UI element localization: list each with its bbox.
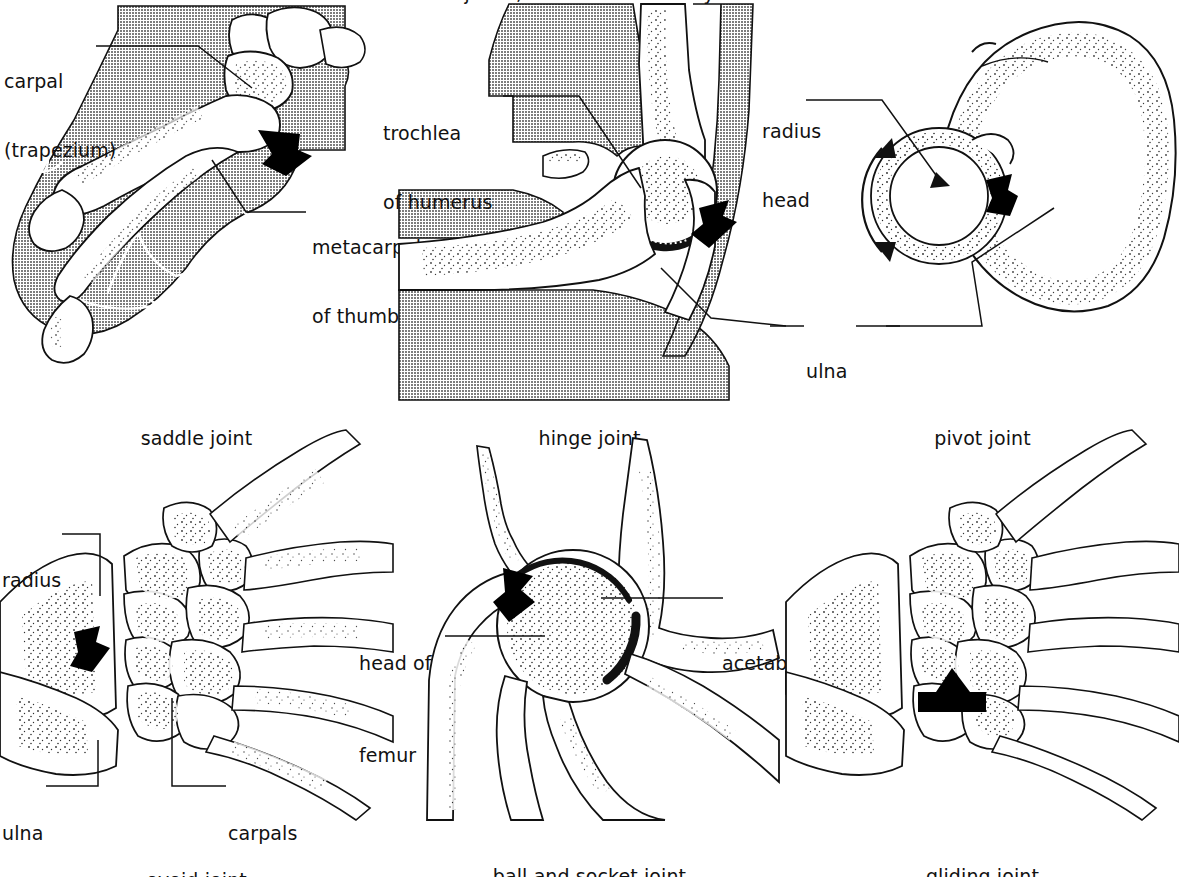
label-carpal-trapezium: carpal (trapezium) [4, 24, 116, 208]
gliding-joint-illustration [786, 430, 1179, 877]
ilium-edge [477, 446, 529, 580]
caption-ovoid-joint: ovoid joint [0, 820, 393, 877]
caption-ball-and-socket-joint: ball and socket joint (hip) [393, 816, 786, 877]
caption-gliding-joint: gliding joint (between carpals) [786, 816, 1179, 877]
joint-types-figure: joints, as seen in the body [0, 0, 1179, 877]
label-head-of-femur: head of femur [359, 606, 432, 813]
label-radius-head: radius head [762, 74, 821, 258]
panel-gliding-joint: gliding joint (between carpals) [786, 430, 1179, 877]
ovoid-joint-illustration [0, 430, 393, 877]
panel-saddle-joint: carpal (trapezium) metacarpal of thumb s… [0, 0, 393, 430]
label-trochlea-of-humerus: trochlea of humerus [383, 76, 492, 260]
ulna-shared-leader [770, 300, 900, 350]
label-radius: radius [2, 523, 61, 638]
panel-hinge-joint: trochlea of humerus hinge joint [393, 0, 786, 430]
panel-ovoid-joint: radius ulna carpals ovoid joint [0, 430, 393, 877]
